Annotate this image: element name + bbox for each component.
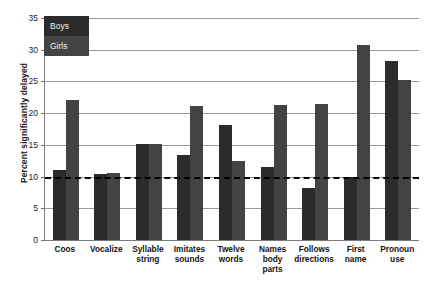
y-axis-tick bbox=[41, 145, 45, 146]
bar-boys bbox=[385, 61, 398, 240]
y-axis-tick bbox=[41, 113, 45, 114]
x-axis-label: Vocalize bbox=[86, 244, 128, 254]
bar-boys bbox=[177, 155, 190, 240]
reference-line-10-percent bbox=[45, 177, 419, 179]
bar-girls bbox=[149, 144, 162, 240]
bar-group bbox=[385, 18, 411, 240]
bar-girls bbox=[190, 106, 203, 240]
bar-girls bbox=[315, 104, 328, 240]
bar-group bbox=[94, 18, 120, 240]
x-axis-label: First name bbox=[335, 244, 377, 264]
bar-girls bbox=[398, 80, 411, 240]
legend-item-boys: Boys bbox=[44, 16, 89, 36]
bar-boys bbox=[94, 174, 107, 240]
bar-boys bbox=[136, 144, 149, 240]
x-axis-label: Imitates sounds bbox=[169, 244, 211, 264]
bar-girls bbox=[357, 45, 370, 240]
bar-girls bbox=[232, 161, 245, 240]
bar-girls bbox=[66, 100, 79, 240]
bar-group bbox=[219, 18, 245, 240]
legend-item-girls: Girls bbox=[44, 36, 89, 56]
bar-group bbox=[261, 18, 287, 240]
y-axis-tick-label: 15 bbox=[16, 140, 38, 150]
bar-boys bbox=[53, 170, 66, 240]
bar-chart: Percent significantly delayed 0510152025… bbox=[0, 0, 429, 286]
x-axis-label: Syllable string bbox=[127, 244, 169, 264]
x-axis-label: Twelve words bbox=[210, 244, 252, 264]
bar-girls bbox=[107, 173, 120, 240]
y-axis-tick bbox=[41, 81, 45, 82]
bar-boys bbox=[344, 177, 357, 240]
x-axis-label: Follows directions bbox=[293, 244, 335, 264]
bar-group bbox=[302, 18, 328, 240]
chart-legend: Boys Girls bbox=[44, 16, 89, 56]
y-axis-tick bbox=[41, 240, 45, 241]
legend-label-boys: Boys bbox=[50, 21, 69, 31]
y-axis-tick-label: 25 bbox=[16, 76, 38, 86]
y-axis-tick-label: 35 bbox=[16, 13, 38, 23]
bar-boys bbox=[302, 188, 315, 240]
plot-area bbox=[44, 18, 419, 241]
bar-group bbox=[136, 18, 162, 240]
y-axis-tick-label: 20 bbox=[16, 108, 38, 118]
bar-group bbox=[344, 18, 370, 240]
bar-boys bbox=[219, 125, 232, 240]
y-axis-tick bbox=[41, 208, 45, 209]
y-axis-tick-label: 5 bbox=[16, 203, 38, 213]
y-axis-tick-label: 30 bbox=[16, 45, 38, 55]
x-axis-label: Pronoun use bbox=[376, 244, 418, 264]
x-axis-label: Coos bbox=[44, 244, 86, 254]
bar-girls bbox=[274, 105, 287, 240]
x-axis-label: Names body parts bbox=[252, 244, 294, 274]
y-axis-tick-label: 0 bbox=[16, 235, 38, 245]
legend-label-girls: Girls bbox=[50, 41, 67, 51]
bar-group bbox=[177, 18, 203, 240]
y-axis-tick-label: 10 bbox=[16, 172, 38, 182]
